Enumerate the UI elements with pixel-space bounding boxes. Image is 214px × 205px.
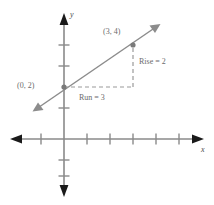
rise-label: Rise = 2 [139,58,166,66]
y-axis-arrow-up [60,13,69,25]
run-label: Run = 3 [79,94,105,102]
point-marker-a [61,84,66,89]
x-axis-label: x [201,146,205,154]
point-label-a: (0, 2) [17,82,34,90]
point-marker-b [130,42,135,47]
plotted-line-arrow-upper [150,24,161,33]
y-axis-label: y [70,11,74,19]
x-axis-arrow-right [192,135,204,144]
point-label-b: (3, 4) [103,28,120,36]
coordinate-plane-figure: (3, 4) (0, 2) Rise = 2 Run = 3 x y [0,0,214,205]
plotted-line-arrow-lower [33,103,44,112]
x-axis-arrow-left [10,135,22,144]
y-axis-arrow-down [60,185,69,197]
